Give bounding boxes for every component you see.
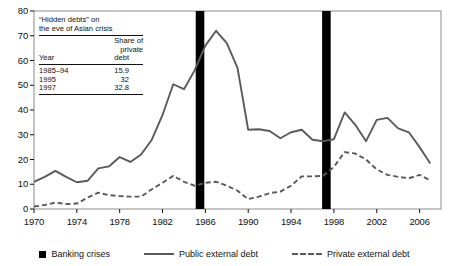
inset-table-rows: 1985–9415.9199532199732.8	[39, 67, 145, 93]
inset-table: “Hidden debts” on the eve of Asian crisi…	[39, 16, 145, 97]
x-axis-tick-1974: 1974	[57, 217, 97, 227]
inset-row-share: 32.8	[114, 84, 143, 93]
legend-item-private-external-debt: Private external debt	[292, 249, 410, 259]
y-axis-tick-30: 30	[4, 130, 28, 140]
inset-row-year: 1997	[39, 84, 56, 93]
x-axis-tick-1982: 1982	[143, 217, 183, 227]
x-axis-tick-2002: 2002	[357, 217, 397, 227]
chart-legend: Banking crises Public external debt Priv…	[0, 244, 449, 264]
y-axis-tick-10: 10	[4, 179, 28, 189]
y-axis-tick-60: 60	[4, 56, 28, 66]
y-axis-tick-40: 40	[4, 105, 28, 115]
x-axis-tick-2006: 2006	[400, 217, 440, 227]
inset-title-line-2: the eve of Asian crisis	[39, 25, 143, 34]
crisis-band-2	[322, 11, 331, 209]
inset-header-row: Year debt	[39, 54, 143, 63]
inset-year-label: Year	[39, 54, 54, 63]
y-axis-tick-70: 70	[4, 31, 28, 41]
legend-label-private-external-debt: Private external debt	[327, 249, 410, 259]
inset-table-title: “Hidden debts” on the eve of Asian crisi…	[39, 16, 143, 33]
inset-debt-label: debt	[114, 54, 143, 63]
x-axis-tick-1970: 1970	[14, 217, 54, 227]
inset-column-header: Share of private	[39, 37, 143, 54]
x-axis-tick-1998: 1998	[314, 217, 354, 227]
legend-label-public-external-debt: Public external debt	[179, 249, 258, 259]
legend-item-public-external-debt: Public external debt	[144, 249, 258, 259]
solid-line-swatch-icon	[144, 253, 174, 255]
x-axis-tick-1978: 1978	[100, 217, 140, 227]
legend-item-banking-crises: Banking crises	[39, 249, 110, 259]
chart-container: 01020304050607080 1970197419781982198619…	[0, 0, 449, 266]
x-axis-tick-1990: 1990	[228, 217, 268, 227]
square-swatch-icon	[39, 251, 46, 258]
y-axis-tick-80: 80	[4, 6, 28, 16]
y-axis-tick-20: 20	[4, 155, 28, 165]
y-axis-tick-50: 50	[4, 80, 28, 90]
legend-label-banking-crises: Banking crises	[51, 249, 110, 259]
crisis-band-1	[196, 11, 205, 209]
inset-rule-bottom	[39, 94, 143, 95]
inset-table-row: 199732.8	[39, 84, 143, 93]
x-axis-tick-1986: 1986	[185, 217, 225, 227]
dashed-line-swatch-icon	[292, 253, 322, 255]
x-axis-tick-1994: 1994	[271, 217, 311, 227]
y-axis-tick-0: 0	[4, 204, 28, 214]
